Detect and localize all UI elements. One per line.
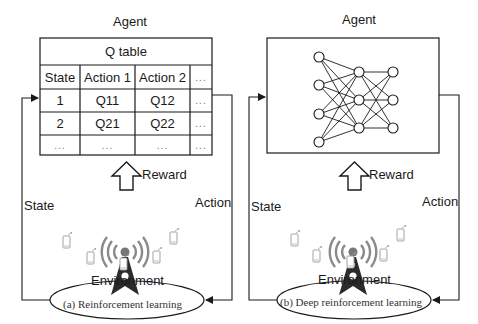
q-table-cell: ... xyxy=(40,135,80,155)
action-label-b: Action xyxy=(422,194,458,209)
q-table-cell: 2 xyxy=(40,112,80,135)
mobile-device-icon xyxy=(63,232,72,248)
mobile-device-icon xyxy=(87,248,96,264)
q-table-cell: Q12 xyxy=(135,89,190,112)
q-table-cell: ... xyxy=(135,135,190,155)
q-table-header: Action 2 xyxy=(135,65,190,89)
q-table-cell: Q21 xyxy=(80,112,135,135)
q-table-header: Action 1 xyxy=(80,65,135,89)
mobile-device-icon xyxy=(380,245,389,261)
environment-label-a: Environment xyxy=(91,273,164,288)
q-table-cell: Q22 xyxy=(135,112,190,135)
mobile-device-icon xyxy=(313,246,322,262)
q-table-cell: Q11 xyxy=(80,89,135,112)
mobile-device-icon xyxy=(397,225,406,241)
mobile-device-icon xyxy=(153,247,162,263)
q-table-title: Q table xyxy=(40,38,212,65)
reward-label-b: Reward xyxy=(369,167,414,182)
agent-label-a: Agent xyxy=(113,14,147,29)
reward-arrow-b xyxy=(340,162,369,190)
q-table-cell: ... xyxy=(80,135,135,155)
mobile-device-icon xyxy=(170,228,179,244)
mobile-device-icon xyxy=(291,230,300,246)
agent-box-b xyxy=(267,38,439,153)
agent-label-b: Agent xyxy=(342,12,376,27)
state-label-a: State xyxy=(24,198,54,213)
caption-a: (a) Reinforcement learning xyxy=(63,298,182,310)
environment-label-b: Environment xyxy=(318,272,391,287)
q-table-cell: 1 xyxy=(40,89,80,112)
reward-arrow-a xyxy=(112,162,141,190)
reward-label-a: Reward xyxy=(142,167,187,182)
q-table-cell: ... xyxy=(190,89,212,112)
q-table-cell: ... xyxy=(190,112,212,135)
q-table-cell: ... xyxy=(190,135,212,155)
action-label-a: Action xyxy=(195,195,231,210)
caption-b: (b) Deep reinforcement learning xyxy=(280,296,422,308)
state-label-b: State xyxy=(251,199,281,214)
q-table-header: ... xyxy=(190,65,212,89)
q-table-header: State xyxy=(40,65,80,89)
